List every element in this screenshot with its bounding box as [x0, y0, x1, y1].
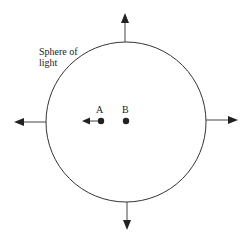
point-a: [82, 118, 104, 125]
sphere-of-light-diagram: A B Sphere of light: [0, 0, 250, 240]
sphere-label-line2: light: [39, 57, 58, 68]
arrow-up-icon: [121, 13, 129, 42]
point-a-label: A: [96, 104, 104, 115]
point-b-label: B: [122, 104, 129, 115]
sphere-label-line1: Sphere of: [39, 46, 78, 57]
arrow-down-icon: [123, 202, 131, 230]
arrow-left-icon: [14, 118, 46, 126]
arrow-right-icon: [206, 116, 238, 124]
point-b: [123, 118, 129, 124]
